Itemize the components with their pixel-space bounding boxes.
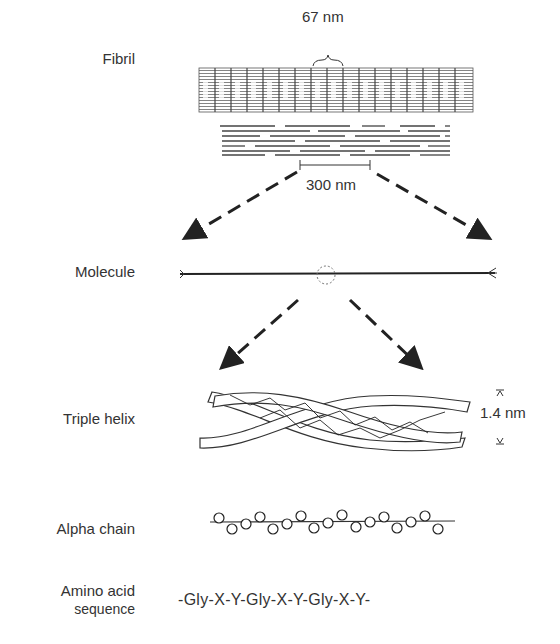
zoom-arrow-right-1 (377, 174, 482, 234)
alpha-chain-icon (210, 510, 455, 534)
scale-bar-300nm (300, 160, 370, 170)
zoom-arrow-left-1 (192, 172, 297, 234)
zoom-arrow-right-2 (350, 300, 415, 362)
molecule-icon (180, 266, 497, 284)
triple-helix-icon (200, 392, 470, 451)
helix-diameter-marker (496, 390, 504, 444)
diagram-graphics (0, 0, 560, 644)
fibril-icon (199, 55, 473, 112)
staggered-molecules-icon (220, 126, 450, 155)
zoom-arrow-left-2 (228, 300, 298, 362)
